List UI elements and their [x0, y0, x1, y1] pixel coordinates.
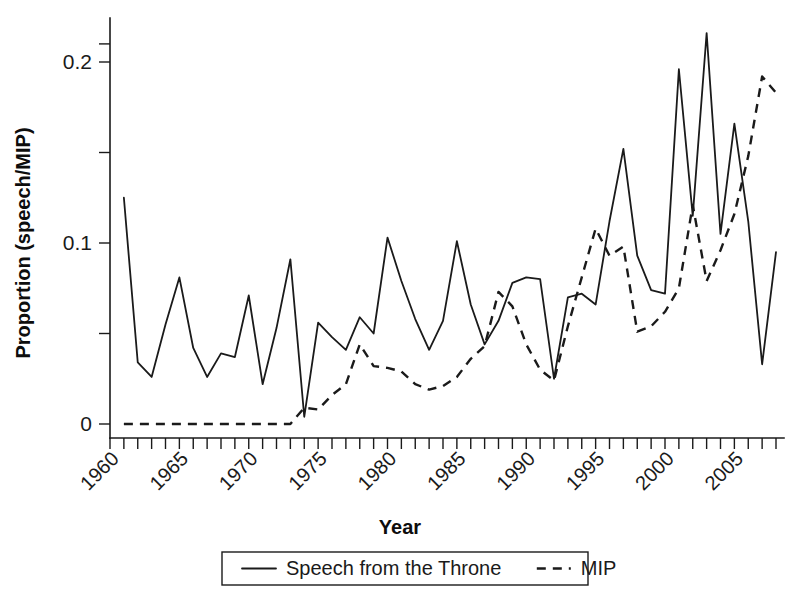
y-tick-label: 0	[80, 412, 92, 435]
x-tick-label: 2005	[700, 447, 747, 494]
chart-figure: 00.10.2 19601965197019751980198519901995…	[0, 0, 807, 608]
x-tick-label: 1960	[76, 447, 123, 494]
legend-label: Speech from the Throne	[286, 557, 501, 579]
x-tick-label: 1990	[492, 447, 539, 494]
series-line-speech-from-the-throne	[124, 33, 776, 417]
y-tick-label: 0.1	[63, 231, 92, 254]
x-axis-title: Year	[379, 516, 421, 538]
x-tick-label: 2000	[631, 447, 678, 494]
x-tick-label: 1985	[423, 447, 470, 494]
x-tick-label: 1980	[353, 447, 400, 494]
y-axis: 00.10.2	[63, 18, 110, 438]
legend-label: MIP	[581, 557, 617, 579]
x-tick-label: 1965	[145, 447, 192, 494]
x-tick-label: 1975	[284, 447, 331, 494]
series-line-mip	[124, 76, 776, 424]
x-tick-label: 1970	[215, 447, 262, 494]
x-tick-label: 1995	[561, 447, 608, 494]
x-axis: 1960196519701975198019851990199520002005	[76, 438, 784, 494]
y-axis-title: Proportion (speech/MIP)	[12, 127, 34, 358]
line-chart: 00.10.2 19601965197019751980198519901995…	[0, 0, 807, 608]
y-tick-label: 0.2	[63, 50, 92, 73]
data-series-group	[124, 33, 776, 424]
chart-legend: Speech from the ThroneMIP	[222, 552, 616, 585]
